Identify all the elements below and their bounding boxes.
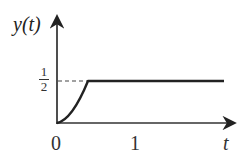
y-axis-label: y(t) [13,14,41,34]
x-tick-one: 1 [130,133,140,153]
fraction-numerator: 1 [38,66,50,78]
x-axis-label: t [223,133,229,153]
y-tick-half: 1 2 [38,66,50,93]
fraction-denominator: 2 [38,81,50,93]
x-tick-zero: 0 [51,133,61,153]
response-curve [57,81,224,123]
